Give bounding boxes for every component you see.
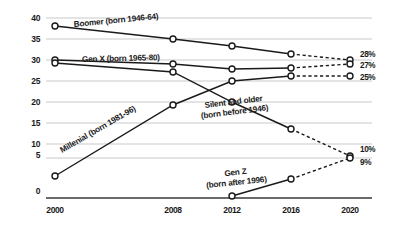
x-tick-2012: 2012 [223, 205, 241, 215]
data-point [347, 73, 353, 79]
data-point [229, 78, 235, 84]
x-tick-2016: 2016 [282, 205, 300, 215]
end-label-boomer: 28% [360, 50, 376, 59]
y-tick-15: 15 [31, 118, 40, 128]
series-boomer-projection [291, 54, 350, 60]
series-label-silent: Silent and older (born before 1946) [199, 93, 269, 120]
data-point [229, 66, 235, 72]
y-tick-25: 25 [31, 76, 40, 86]
y-tick-35: 35 [31, 34, 40, 44]
series-label-millenial: Millenial (born 1981-96) [59, 104, 138, 155]
y-tick-10: 10 [31, 139, 40, 149]
data-point [52, 60, 58, 66]
end-label-millenial: 25% [360, 73, 376, 82]
data-point [170, 61, 176, 67]
end-label-gen-x: 27% [360, 61, 376, 70]
data-point [52, 23, 58, 29]
x-tick-2008: 2008 [164, 205, 182, 215]
y-tick-5: 5 [36, 150, 41, 160]
series-gen-x-projection [291, 64, 350, 68]
data-point [170, 102, 176, 108]
y-tick-40: 40 [31, 13, 40, 23]
series-gen-z-projection [291, 158, 350, 179]
series-label-gen-x: Gen X (born 1965-80) [82, 53, 161, 64]
series-millenial-line [55, 76, 291, 176]
y-tick-20: 20 [31, 97, 40, 107]
data-point [170, 69, 176, 75]
y-tick-30: 30 [31, 55, 40, 65]
data-point [52, 173, 58, 179]
y-axis-ticks: 40 35 30 25 20 15 10 5 0 [31, 13, 40, 196]
series-label-gen-z: Gen Z (born after 1996) [205, 165, 268, 190]
gridlines [46, 18, 372, 158]
y-tick-0: 0 [36, 186, 41, 196]
data-point [288, 51, 294, 57]
data-point [170, 36, 176, 42]
x-tick-2020: 2020 [341, 205, 359, 215]
data-point [347, 61, 353, 67]
x-axis-ticks: 2000 2008 2012 2016 2020 [46, 205, 359, 215]
data-point [229, 43, 235, 49]
end-label-gen-z: 9% [360, 158, 372, 167]
generational-share-line-chart: 40 35 30 25 20 15 10 5 0 2000 2008 2012 … [0, 0, 406, 231]
data-point [288, 73, 294, 79]
x-tick-2000: 2000 [46, 205, 64, 215]
data-point [347, 155, 353, 161]
data-point [288, 65, 294, 71]
data-point [229, 193, 235, 199]
series-silent-projection [291, 129, 350, 156]
data-point [288, 176, 294, 182]
data-point [288, 126, 294, 132]
series-label-boomer: Boomer (born 1946-64) [73, 12, 159, 29]
end-label-silent: 10% [360, 145, 376, 154]
end-value-labels: 28% 27% 25% 10% 9% [360, 50, 376, 167]
chart-container: 40 35 30 25 20 15 10 5 0 2000 2008 2012 … [0, 0, 406, 231]
